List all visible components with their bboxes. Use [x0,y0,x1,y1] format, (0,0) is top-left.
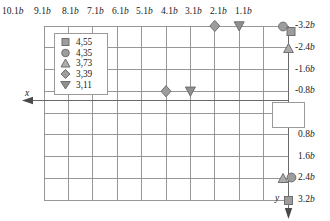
diamond-icon [59,69,73,79]
x-tick-label-3: 3.1b [185,6,202,16]
y-tick-label-pos16: 1.6b [298,151,315,161]
x-tick-label-6: 6.1b [112,6,129,16]
circle-icon [59,48,73,58]
x-axis [22,97,288,104]
marker-square-upper-right [287,28,295,36]
blank-callout-box [272,102,305,128]
x-tick-label-8: 8.1b [62,6,79,16]
legend-item-2: 3,73 [59,58,105,69]
square-icon [59,37,73,47]
y-axis-label: y [275,193,279,203]
y-tick-label-pos08: 0.8b [298,129,315,139]
marker-square-lower-right [285,197,293,205]
x-tick-label-4: 4.1b [161,6,178,16]
x-tick-label-7: 7.1b [87,6,104,16]
legend-label-0: 4,55 [73,37,92,47]
chart-root: 10.1b 9.1b 8.1b 7.1b 6.1b 5.1b 4.1b 3.1b… [0,0,330,221]
legend-item-0: 4,55 [59,37,105,48]
legend-label-1: 4,35 [73,48,92,58]
y-tick-label-neg24: -2.4b [295,42,315,52]
triangle-down-icon [59,80,73,90]
x-tick-label-1: 1.1b [235,6,252,16]
y-axis-arrow [285,208,292,219]
x-tick-label-9: 9.1b [34,6,51,16]
y-tick-label-neg16: -1.6b [295,64,315,74]
triangle-up-icon [59,58,73,68]
marker-circle-upper-right [279,22,288,31]
legend-label-3: 3,39 [73,69,92,79]
legend-label-4: 3,11 [73,80,92,90]
y-tick-label-pos24: 2.4b [298,172,315,182]
legend-label-2: 3,73 [73,58,92,68]
x-tick-label-5: 5.1b [136,6,153,16]
legend: 4,55 4,35 3,73 3,39 3,11 [54,33,108,95]
x-axis-label: x [25,88,29,98]
y-tick-label-pos32: 3.2b [298,194,315,204]
x-tick-label-2: 2.1b [210,6,227,16]
legend-item-1: 4,35 [59,48,105,59]
marker-circle-lower-right [287,173,296,182]
legend-item-3: 3,39 [59,69,105,80]
marker-diamond-mid [161,86,171,97]
legend-item-4: 3,11 [59,79,105,90]
y-tick-label-neg08: -0.8b [295,85,315,95]
x-tick-label-10: 10.1b [2,6,23,16]
y-tick-label-neg32: -3.2b [295,20,315,30]
marker-diamond-top [210,20,220,31]
